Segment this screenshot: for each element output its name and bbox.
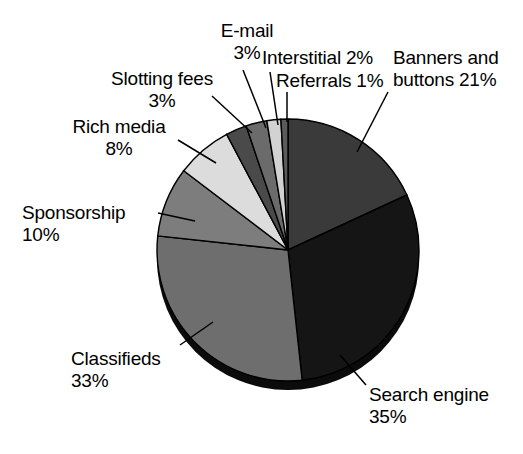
pie-chart-figure: E-mail 3% Slotting fees 3% Rich media 8%… bbox=[0, 0, 523, 454]
slice-label-classifieds: Classifieds 33% bbox=[71, 348, 211, 392]
slice-label-banners-and-buttons: Banners and buttons 21% bbox=[393, 47, 521, 91]
pie-slices bbox=[157, 119, 419, 381]
slice-label-rich-media: Rich media 8% bbox=[55, 116, 183, 160]
slice-label-sponsorship: Sponsorship 10% bbox=[22, 202, 168, 246]
leader-line-email bbox=[243, 70, 266, 128]
slice-label-interstitial: Interstitial 2% bbox=[262, 47, 386, 69]
leader-line-banners bbox=[357, 92, 388, 152]
slice-label-referrals: Referrals 1% bbox=[276, 70, 394, 92]
slice-label-search-engine: Search engine 35% bbox=[369, 384, 519, 428]
slice-label-slotting-fees: Slotting fees 3% bbox=[92, 68, 232, 112]
